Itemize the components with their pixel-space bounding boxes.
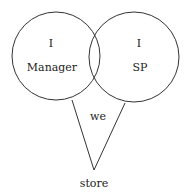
left-circle-label-2: Manager: [27, 61, 78, 74]
left-circle-manager: [12, 12, 100, 100]
overlap-label: we: [90, 110, 106, 123]
left-circle-label-1: I: [49, 37, 53, 50]
apex-label: store: [80, 177, 108, 190]
right-circle-label-2: SP: [133, 61, 149, 74]
venn-diagram: I Manager I SP we store: [0, 0, 186, 195]
right-circle-label-1: I: [137, 37, 141, 50]
right-circle-sp: [89, 12, 179, 102]
